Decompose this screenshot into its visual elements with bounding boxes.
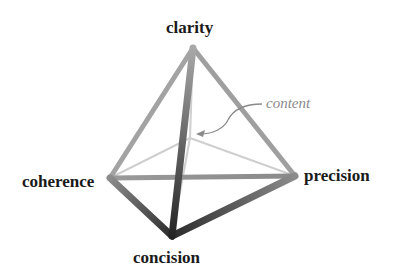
vertex-label-precision: precision [304, 166, 370, 186]
arrowhead-icon [196, 130, 205, 137]
edge-coherence-concision [110, 178, 172, 236]
center-label-content: content [266, 95, 310, 112]
vertex-label-clarity: clarity [166, 18, 213, 38]
tetrahedron-graphic [0, 0, 394, 280]
edge-precision-concision [172, 176, 295, 236]
vertex-label-concision: concision [133, 248, 200, 268]
vertex-label-coherence: coherence [22, 172, 94, 192]
tetrahedron-diagram: clarity coherence precision concision co… [0, 0, 394, 280]
edge-coherence-precision [110, 176, 295, 178]
